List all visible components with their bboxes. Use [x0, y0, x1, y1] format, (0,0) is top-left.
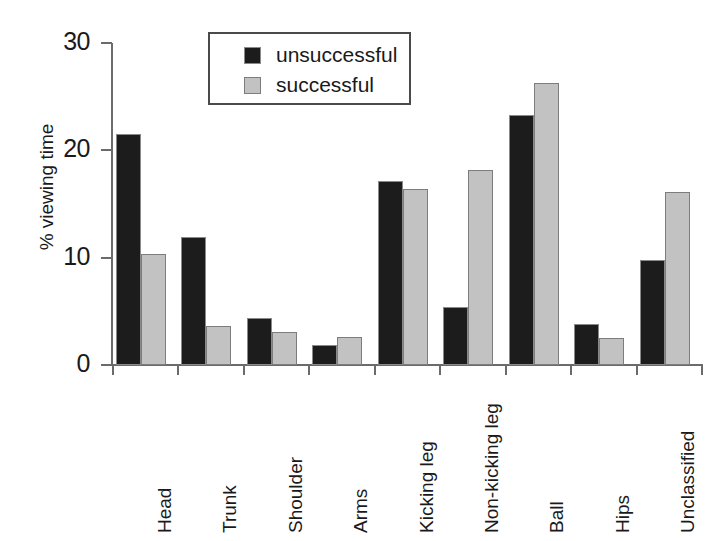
x-tick [439, 364, 441, 375]
bar-unsuccessful [443, 307, 468, 365]
x-axis-category-label: Hips [612, 495, 633, 533]
x-axis-category-label: Shoulder [285, 457, 306, 533]
bar-unsuccessful [312, 345, 337, 365]
x-tick [177, 364, 179, 375]
bar-successful [403, 189, 428, 365]
x-axis-category-label: Trunk [219, 485, 240, 533]
y-tick [101, 42, 112, 44]
x-tick [112, 364, 114, 375]
x-tick [505, 364, 507, 375]
bar-successful [468, 170, 493, 365]
x-tick [243, 364, 245, 375]
y-tick-label: 30 [34, 29, 90, 55]
bar-unsuccessful [378, 181, 403, 365]
y-tick-label: 0 [34, 351, 90, 377]
legend-label: successful [276, 74, 374, 96]
y-tick-label-text: 0 [44, 351, 90, 376]
y-axis-line [111, 43, 113, 366]
x-tick [701, 364, 703, 375]
bar-unsuccessful [247, 318, 272, 365]
legend-swatch-icon [244, 77, 261, 94]
x-axis-category-label: Head [154, 488, 175, 533]
y-tick [101, 257, 112, 259]
bar-successful [141, 254, 166, 365]
y-tick [101, 149, 112, 151]
x-tick [374, 364, 376, 375]
y-tick-label-text: 30 [44, 29, 90, 54]
x-tick [308, 364, 310, 375]
bar-successful [206, 326, 231, 365]
bar-successful [337, 337, 362, 365]
x-axis-category-label: Arms [350, 489, 371, 533]
legend-item-successful: successful [244, 72, 374, 98]
bar-successful [272, 332, 297, 365]
legend-swatch-icon [244, 47, 261, 64]
bar-unsuccessful [509, 115, 534, 365]
bar-unsuccessful [116, 134, 141, 365]
x-axis-category-label: Unclassified [677, 431, 698, 533]
bar-unsuccessful [640, 260, 665, 365]
x-axis-category-label: Kicking leg [416, 441, 437, 533]
bar-chart-figure: 0102030 % viewing time HeadTrunkShoulder… [0, 0, 719, 541]
legend-label: unsuccessful [276, 44, 397, 66]
y-axis-title: % viewing time [37, 62, 57, 312]
bar-successful [665, 192, 690, 365]
x-axis-category-label: Non-kicking leg [481, 403, 502, 533]
x-tick [570, 364, 572, 375]
bar-successful [599, 338, 624, 365]
x-tick [636, 364, 638, 375]
legend: unsuccessful successful [208, 32, 411, 105]
legend-item-unsuccessful: unsuccessful [244, 42, 397, 68]
bar-successful [534, 83, 559, 365]
x-axis-category-label: Ball [546, 501, 567, 533]
bar-unsuccessful [181, 237, 206, 365]
bar-unsuccessful [574, 324, 599, 365]
